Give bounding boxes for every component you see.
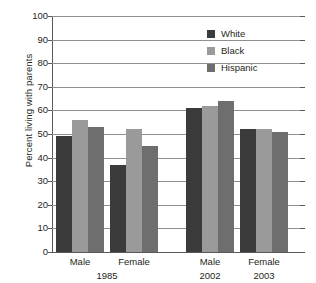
legend-item-white: White [207, 26, 257, 41]
y-tick-label-0: 0 [8, 247, 48, 257]
y-tick-mark-20 [48, 205, 52, 206]
legend-swatch-black-icon [207, 47, 215, 55]
bar-white-2003-female [240, 129, 256, 252]
y-tick-mark-right-60 [300, 110, 305, 111]
gridline-70 [52, 87, 300, 88]
y-tick-label-40: 40 [8, 153, 48, 163]
y-tick-mark-right-80 [300, 63, 305, 64]
x-tick-label-2003-female: Female [229, 256, 299, 267]
y-tick-mark-100 [48, 16, 52, 17]
y-tick-label-30: 30 [8, 176, 48, 186]
x-group-label-1985: 1985 [72, 270, 142, 281]
bar-hispanic-2003-female [272, 132, 288, 252]
y-tick-mark-0 [48, 252, 52, 253]
legend-label-white: White [221, 28, 245, 39]
y-tick-mark-40 [48, 158, 52, 159]
y-tick-mark-right-90 [300, 40, 305, 41]
x-axis-line [52, 252, 301, 253]
bar-black-2002-male [202, 106, 218, 252]
y-tick-mark-right-10 [300, 228, 305, 229]
x-group-label-2003: 2003 [229, 270, 299, 281]
y-tick-mark-right-100 [300, 16, 305, 17]
bar-hispanic-1985-female [142, 146, 158, 252]
chart-legend: White Black Hispanic [207, 26, 257, 77]
y-tick-mark-10 [48, 228, 52, 229]
y-tick-mark-30 [48, 181, 52, 182]
x-tick-label-1985-female: Female [99, 256, 169, 267]
y-tick-mark-right-30 [300, 181, 305, 182]
legend-label-hispanic: Hispanic [221, 62, 257, 73]
y-tick-label-90: 90 [8, 35, 48, 45]
y-tick-mark-right-70 [300, 87, 305, 88]
bar-white-1985-male [56, 136, 72, 252]
bar-black-2003-female [256, 129, 272, 252]
legend-item-hispanic: Hispanic [207, 60, 257, 75]
y-tick-label-60: 60 [8, 105, 48, 115]
bar-chart: Percent living with parents 010203040506… [0, 0, 316, 283]
bar-hispanic-2002-male [218, 101, 234, 252]
gridline-80 [52, 63, 300, 64]
y-tick-label-100: 100 [8, 11, 48, 21]
gridline-90 [52, 40, 300, 41]
legend-label-black: Black [221, 45, 244, 56]
bar-white-1985-female [110, 165, 126, 252]
y-tick-mark-70 [48, 87, 52, 88]
y-tick-mark-right-40 [300, 158, 305, 159]
legend-swatch-white-icon [207, 30, 215, 38]
y-tick-mark-right-0 [300, 252, 305, 253]
y-tick-label-70: 70 [8, 82, 48, 92]
plot-area: 0102030405060708090100 [52, 16, 300, 252]
bar-white-2002-male [186, 108, 202, 252]
y-tick-mark-right-50 [300, 134, 305, 135]
y-tick-label-80: 80 [8, 58, 48, 68]
y-tick-mark-80 [48, 63, 52, 64]
y-tick-mark-right-20 [300, 205, 305, 206]
bar-black-1985-female [126, 129, 142, 252]
gridline-60 [52, 110, 300, 111]
y-tick-mark-60 [48, 110, 52, 111]
y-tick-mark-50 [48, 134, 52, 135]
y-tick-label-20: 20 [8, 200, 48, 210]
y-tick-label-10: 10 [8, 223, 48, 233]
y-tick-label-50: 50 [8, 129, 48, 139]
bar-hispanic-1985-male [88, 127, 104, 252]
legend-item-black: Black [207, 43, 257, 58]
legend-swatch-hispanic-icon [207, 64, 215, 72]
bar-black-1985-male [72, 120, 88, 252]
y-tick-mark-90 [48, 40, 52, 41]
gridline-100 [52, 16, 300, 17]
